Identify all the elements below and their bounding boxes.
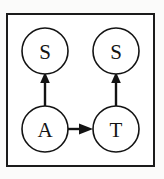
node-label: S xyxy=(110,40,122,64)
edge-a-to-t xyxy=(68,124,93,135)
node-label: S xyxy=(39,40,51,64)
edge-a-to-s-left xyxy=(40,72,50,106)
edge-t-to-s-right xyxy=(111,72,121,106)
node-s-top-left[interactable]: S xyxy=(22,28,68,74)
diagram-canvas: S S A T xyxy=(0,0,164,179)
node-label: T xyxy=(110,118,123,142)
node-s-top-right[interactable]: S xyxy=(93,28,139,74)
node-label: A xyxy=(37,118,53,142)
arrowhead-right xyxy=(79,124,93,135)
node-t-bottom-right[interactable]: T xyxy=(93,106,139,152)
node-a-bottom-left[interactable]: A xyxy=(22,106,68,152)
graph-svg: S S A T xyxy=(0,0,164,179)
